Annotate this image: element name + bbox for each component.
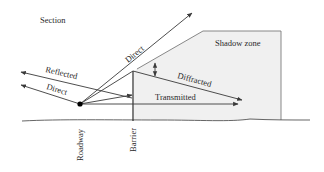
roadway-label: Roadway [75,128,85,161]
noise-barrier-diagram: Section Shadow zone Direct Reflected Dir… [0,0,324,172]
direct-up-label: Direct [123,43,146,65]
section-title: Section [40,15,66,25]
direct-left-label: Direct [45,81,69,97]
transmitted-label: Transmitted [155,92,197,102]
shadow-zone-label: Shadow zone [215,38,261,48]
noise-source-point [77,101,82,106]
barrier-label: Barrier [128,128,138,152]
